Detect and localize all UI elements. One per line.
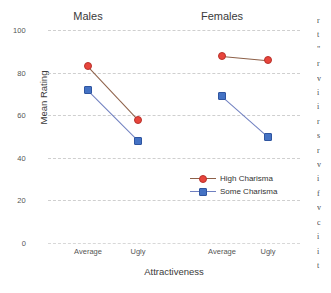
clipped-body-text: rt"rviirsrvifvciit <box>317 14 331 282</box>
point-females-ugly-high[interactable] <box>264 56 272 64</box>
line-segment-males-high <box>87 66 138 120</box>
gridline-100 <box>48 30 300 31</box>
panel-title-males: Males <box>43 10 133 22</box>
y-tick-60: 60 <box>0 111 26 120</box>
y-tick-80: 80 <box>0 69 26 78</box>
legend-marker-circle-icon <box>190 174 216 184</box>
point-males-ugly-some[interactable] <box>134 137 142 145</box>
y-axis-label: Mean Rating <box>38 53 49 143</box>
legend-marker-square-icon <box>190 187 216 197</box>
plot-area <box>48 30 300 243</box>
y-tick-20: 20 <box>0 196 26 205</box>
gridline-20 <box>48 200 300 201</box>
y-tick-0: 0 <box>0 239 26 248</box>
line-segment-females-some <box>221 96 268 137</box>
faceted-line-chart: Mean Rating 100 80 60 40 20 0 Males Fem <box>0 0 331 293</box>
gridline-60 <box>48 115 300 116</box>
gridline-40 <box>48 158 300 159</box>
point-males-ugly-high[interactable] <box>134 116 142 124</box>
legend-label-some-charisma: Some Charisma <box>220 187 277 196</box>
x-axis-label: Attractiveness <box>48 266 300 277</box>
gridline-0 <box>48 243 300 244</box>
gridline-80 <box>48 73 300 74</box>
x-tick-females-ugly: Ugly <box>233 247 303 256</box>
point-males-average-some[interactable] <box>84 86 92 94</box>
legend: High Charisma Some Charisma <box>186 170 281 200</box>
point-females-ugly-some[interactable] <box>264 133 272 141</box>
y-tick-40: 40 <box>0 154 26 163</box>
legend-item-some-charisma[interactable]: Some Charisma <box>190 185 277 198</box>
y-tick-100: 100 <box>0 26 26 35</box>
legend-item-high-charisma[interactable]: High Charisma <box>190 172 277 185</box>
x-tick-males-ugly: Ugly <box>103 247 173 256</box>
point-females-average-some[interactable] <box>218 92 226 100</box>
legend-label-high-charisma: High Charisma <box>220 174 273 183</box>
panel-title-females: Females <box>177 10 267 22</box>
point-females-average-high[interactable] <box>218 52 226 60</box>
line-segment-females-high <box>222 56 268 61</box>
